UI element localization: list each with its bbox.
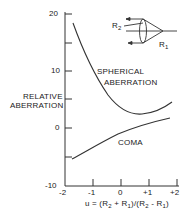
y-ticks (65, 14, 72, 157)
y-tick-20: 20 (49, 9, 58, 18)
coma-label: COMA (118, 138, 143, 147)
lens-diagram-icon (124, 18, 177, 45)
x-tick-neg2: -2 (59, 188, 66, 197)
y-axis-label-line2: ABERRATION (10, 101, 63, 110)
spherical-label-line1: SPHERICAL (97, 67, 144, 76)
x-tick-pos2: +2 (170, 188, 179, 197)
x-axis-label: u = (R2 + R1)/(R2 - R1) (85, 199, 169, 211)
x-ticks (93, 179, 177, 186)
x-tick-0: 0 (118, 188, 122, 197)
inset-r1-label: R1 (159, 40, 169, 52)
x-tick-neg1: -1 (88, 188, 95, 197)
y-tick-0: 0 (55, 123, 59, 132)
chart-plot (0, 0, 192, 220)
y-axis-label-line1: RELATIVE (23, 92, 63, 101)
y-tick-neg10: -10 (45, 181, 57, 190)
x-tick-pos1: +1 (143, 188, 152, 197)
inset-r2-label: R2 (112, 21, 122, 33)
y-tick-10: 10 (51, 66, 60, 75)
spherical-label-line2: ABERRATION (104, 78, 157, 87)
